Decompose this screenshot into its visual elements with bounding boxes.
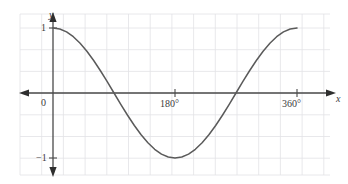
- x-axis: [19, 89, 336, 96]
- x-axis-label: x: [336, 94, 340, 104]
- x-tick-label-180: 180°: [160, 99, 179, 109]
- y-axis: [49, 12, 56, 177]
- y-tick-label-1: 1: [41, 23, 46, 33]
- y-axis-label: y: [49, 10, 53, 20]
- plot-canvas: [0, 0, 348, 184]
- origin-label: 0: [41, 98, 46, 108]
- y-tick-label-minus-1: −1: [36, 153, 47, 163]
- x-tick-label-360: 360°: [282, 99, 301, 109]
- cosine-graph-figure: 1 −1 0 180° 360° y x: [0, 0, 348, 184]
